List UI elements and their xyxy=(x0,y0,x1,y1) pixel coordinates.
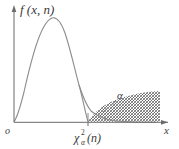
alpha-label: α xyxy=(117,89,123,101)
quantile-subscript: α xyxy=(81,138,86,147)
quantile-chi-symbol: χ xyxy=(73,131,80,145)
y-axis-label: f (x, n) xyxy=(20,2,54,17)
critical-value-label: χ 2 α (n) xyxy=(73,128,101,147)
origin-label: o xyxy=(5,125,10,136)
quantile-argument: (n) xyxy=(87,131,101,145)
shaded-tail-region xyxy=(88,91,160,122)
chart-canvas: f (x, n) o x α χ 2 α (n) xyxy=(0,0,179,149)
chi-square-density-figure: f (x, n) o x α χ 2 α (n) xyxy=(0,0,179,149)
quantile-superscript: 2 xyxy=(81,128,85,137)
density-curve xyxy=(14,18,88,122)
y-axis-arrow-icon xyxy=(12,5,17,12)
x-axis-label: x xyxy=(163,124,169,136)
